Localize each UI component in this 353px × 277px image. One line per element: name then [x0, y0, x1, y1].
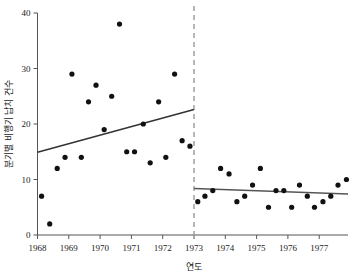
- data-point: [258, 166, 263, 171]
- data-point: [55, 166, 60, 171]
- data-point: [79, 155, 84, 160]
- data-point: [250, 182, 255, 187]
- data-point: [266, 205, 271, 210]
- x-axis-tick-label: 1974: [216, 243, 235, 253]
- x-axis-tick-label: 1969: [60, 243, 79, 253]
- data-point: [289, 205, 294, 210]
- y-axis-title: 분기별 비행기 납치 건수: [3, 80, 14, 169]
- pre-intervention-hijackings: [39, 22, 193, 227]
- post-intervention-trend: [194, 188, 348, 194]
- data-point: [117, 22, 122, 27]
- data-point: [156, 99, 161, 104]
- x-axis-tick-label: 1976: [279, 243, 298, 253]
- data-point: [93, 83, 98, 88]
- data-point: [195, 199, 200, 204]
- pre-intervention-trend: [38, 110, 195, 153]
- x-axis-tick-label: 1971: [122, 243, 140, 253]
- data-point: [62, 155, 67, 160]
- data-point: [47, 221, 52, 226]
- data-point: [132, 149, 137, 154]
- data-point: [281, 188, 286, 193]
- data-point: [69, 71, 74, 76]
- data-point: [109, 94, 114, 99]
- data-point: [344, 177, 349, 182]
- x-axis-tick-label: 1973: [185, 243, 204, 253]
- data-point: [234, 199, 239, 204]
- chart-page: 0102030401968196919701971197219731974197…: [0, 0, 353, 277]
- data-point: [242, 194, 247, 199]
- x-axis-tick-label: 1970: [91, 243, 110, 253]
- x-axis-tick-label: 1975: [248, 243, 267, 253]
- data-point: [297, 182, 302, 187]
- x-axis-tick-label: 1968: [29, 243, 48, 253]
- data-point: [187, 144, 192, 149]
- data-point: [226, 171, 231, 176]
- data-point: [180, 138, 185, 143]
- data-point: [202, 194, 207, 199]
- y-axis-tick-label: 30: [22, 64, 32, 74]
- y-axis-tick-label: 20: [22, 119, 32, 129]
- hijacking-scatter-chart: 0102030401968196919701971197219731974197…: [0, 0, 353, 277]
- data-point: [102, 127, 107, 132]
- data-point: [320, 199, 325, 204]
- data-point: [273, 188, 278, 193]
- data-point: [163, 155, 168, 160]
- data-point: [312, 205, 317, 210]
- y-axis-tick-label: 40: [22, 8, 32, 18]
- data-point: [328, 194, 333, 199]
- data-point: [148, 160, 153, 165]
- data-point: [335, 182, 340, 187]
- data-point: [172, 71, 177, 76]
- data-point: [210, 188, 215, 193]
- data-point: [124, 149, 129, 154]
- y-axis-tick-label: 0: [26, 230, 31, 240]
- x-axis-title: 연도: [186, 262, 202, 272]
- data-point: [141, 121, 146, 126]
- data-point: [218, 166, 223, 171]
- data-point: [86, 99, 91, 104]
- post-intervention-hijackings: [195, 166, 349, 210]
- data-point: [39, 194, 44, 199]
- x-axis-tick-label: 1977: [310, 243, 329, 253]
- x-axis-tick-label: 1972: [154, 243, 172, 253]
- data-point: [305, 194, 310, 199]
- y-axis-tick-label: 10: [22, 175, 32, 185]
